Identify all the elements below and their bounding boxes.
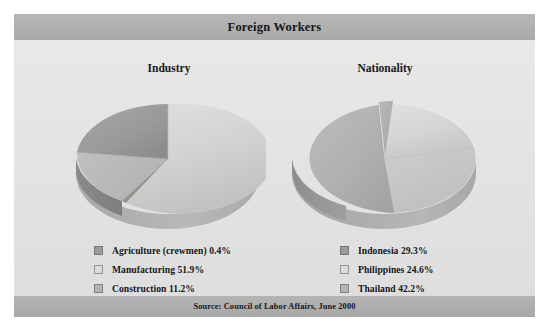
source-note: Source: Council of Labor Affairs, June 2… [194, 302, 356, 311]
legend-label-philippines: Philippines 24.6% [358, 264, 434, 275]
pie-chart-nationality [286, 82, 482, 232]
legend-label-agriculture: Agriculture (crewmen) 0.4% [112, 245, 231, 256]
legend-swatch-indonesia [340, 246, 349, 255]
legend-item: Thailand 42.2% [340, 280, 476, 297]
legend-swatch-agriculture [94, 246, 103, 255]
legend-label-manufacturing: Manufacturing 51.9% [112, 264, 204, 275]
legend-item: Indonesia 29.3% [340, 242, 476, 259]
pie-nationality-svg [286, 82, 482, 232]
legend-swatch-construction [94, 284, 103, 293]
chart-footer-band: Source: Council of Labor Affairs, June 2… [14, 296, 535, 317]
pie-chart-industry [70, 82, 266, 232]
pie-industry-svg [70, 82, 266, 232]
figure-frame: Foreign Workers Industry Nationality [14, 14, 535, 317]
panel-heading-nationality: Nationality [260, 62, 510, 74]
pie-slice-social-personal-services [77, 104, 168, 159]
legend-item: Philippines 24.6% [340, 261, 476, 278]
legend-item: Construction 11.2% [94, 280, 259, 297]
legend-swatch-manufacturing [94, 265, 103, 274]
panel-heading-industry: Industry [44, 62, 294, 74]
page-title: Foreign Workers [228, 20, 322, 35]
legend-swatch-philippines [340, 265, 349, 274]
chart-header-band: Foreign Workers [14, 14, 535, 40]
legend-label-construction: Construction 11.2% [112, 283, 195, 294]
legend-swatch-thailand [340, 284, 349, 293]
legend-label-indonesia: Indonesia 29.3% [358, 245, 428, 256]
chart-body-area: Industry Nationality [14, 40, 535, 296]
legend-item: Manufacturing 51.9% [94, 261, 259, 278]
legend-label-thailand: Thailand 42.2% [358, 283, 425, 294]
legend-item: Agriculture (crewmen) 0.4% [94, 242, 259, 259]
